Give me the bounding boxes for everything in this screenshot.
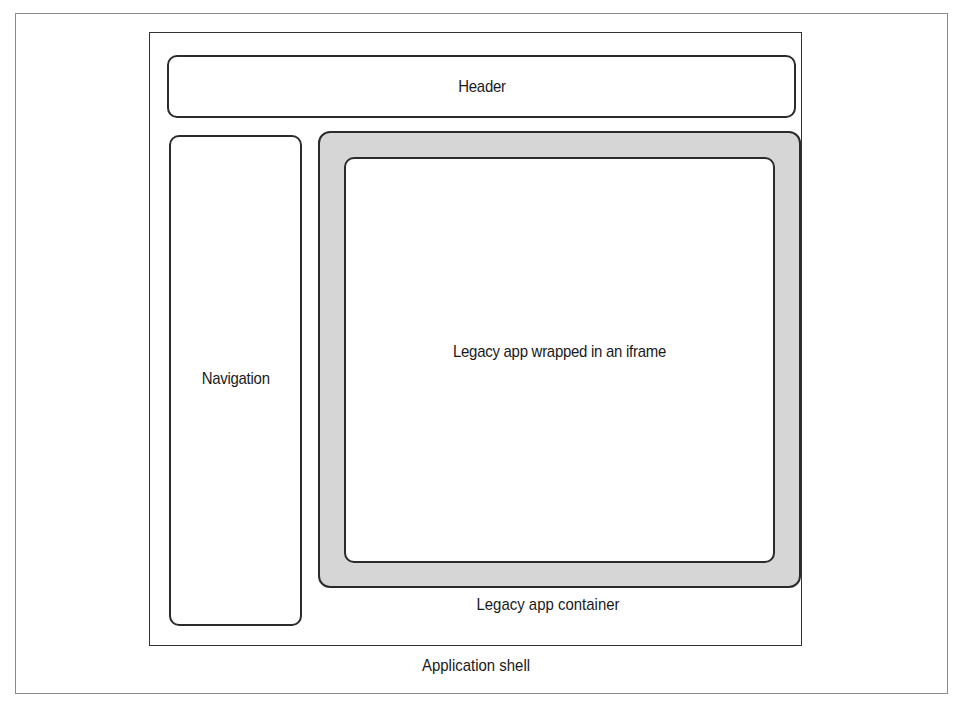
header-box: Header [167, 55, 796, 118]
application-shell-label: Application shell [422, 656, 530, 676]
legacy-app-container-label: Legacy app container [476, 595, 619, 615]
navigation-label: Navigation [201, 369, 269, 389]
legacy-app-iframe-box: Legacy app wrapped in an iframe [344, 157, 775, 563]
navigation-box: Navigation [169, 135, 302, 626]
header-label: Header [458, 77, 505, 97]
iframe-label: Legacy app wrapped in an iframe [372, 342, 748, 362]
